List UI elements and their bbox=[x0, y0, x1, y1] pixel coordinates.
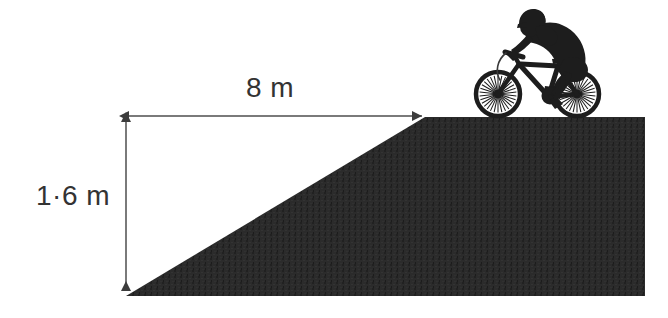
cyclist-silhouette-icon bbox=[476, 9, 599, 116]
base-dimension-label: 8 m bbox=[246, 74, 294, 102]
diagram-canvas bbox=[0, 0, 668, 318]
ramp-diagram: 8 m 1·6 m bbox=[0, 0, 668, 318]
height-dimension-label: 1·6 m bbox=[36, 182, 110, 210]
ramp-solid bbox=[126, 117, 645, 296]
